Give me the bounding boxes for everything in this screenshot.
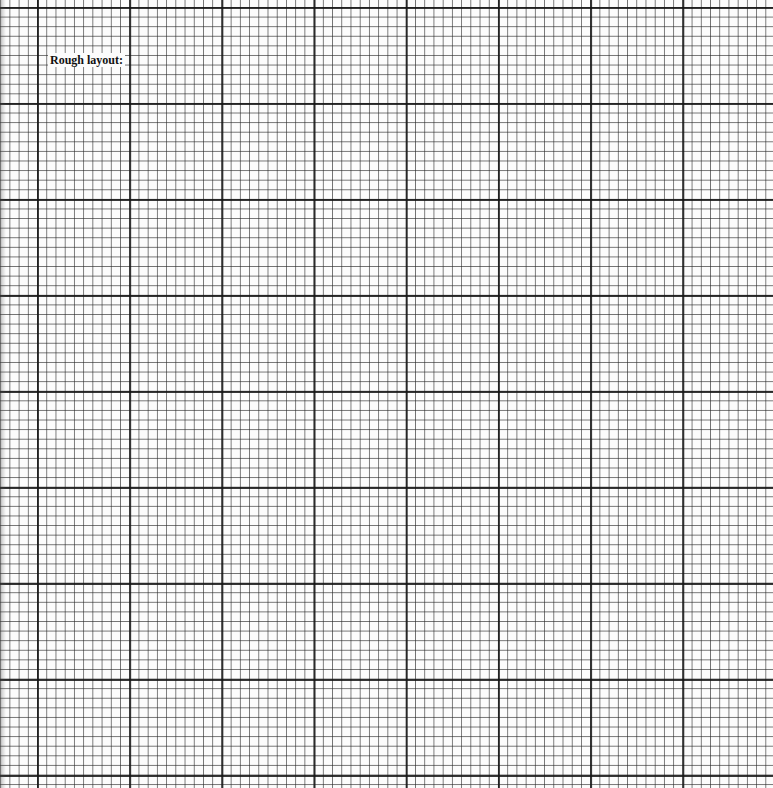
rough-layout-label: Rough layout:: [48, 53, 125, 67]
graph-paper-sheet: Rough layout:: [0, 0, 773, 788]
page-edge-shadow: [0, 0, 6, 788]
